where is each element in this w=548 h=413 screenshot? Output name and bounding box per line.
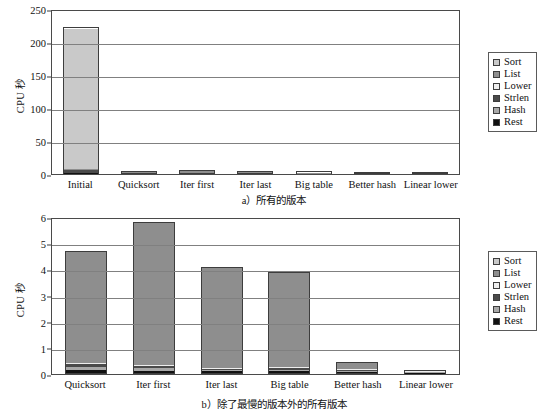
x-tick-label: Better hash bbox=[324, 379, 392, 390]
bar-slot bbox=[52, 11, 110, 174]
x-tick-label: Iter last bbox=[187, 379, 255, 390]
figure-cpu-seconds-by-version: CPU 秒 050100150200250 InitialQuicksortIt… bbox=[0, 0, 548, 413]
legend-swatch-sort bbox=[493, 258, 500, 265]
chart-all-but-slowest: CPU 秒 0123456 QuicksortIter firstIter la… bbox=[0, 205, 548, 413]
gridline bbox=[52, 110, 459, 111]
gridline bbox=[52, 44, 459, 45]
stacked-bar bbox=[179, 170, 215, 174]
x-axis-tick-labels-a: InitialQuicksortIter firstIter lastBig t… bbox=[51, 179, 460, 190]
gridline bbox=[52, 143, 459, 144]
legend-label: Sort bbox=[504, 56, 522, 68]
x-tick-label: Iter first bbox=[119, 379, 187, 390]
gridline bbox=[52, 298, 459, 299]
legend-item: Rest bbox=[493, 315, 531, 327]
legend-label: List bbox=[504, 68, 520, 80]
x-tick-label: Better hash bbox=[343, 179, 401, 190]
x-axis-tick-labels-b: QuicksortIter firstIter lastBig tableBet… bbox=[51, 379, 460, 390]
legend-item: Strlen bbox=[493, 92, 531, 104]
caption-b: b）除了最慢的版本外的所有版本 bbox=[0, 396, 548, 411]
legend-label: Sort bbox=[504, 255, 522, 267]
bar-segment-list bbox=[269, 273, 309, 367]
bar-slot bbox=[168, 11, 226, 174]
plot-area-b bbox=[51, 218, 460, 375]
legend-item: Rest bbox=[493, 116, 531, 128]
stacked-bar bbox=[63, 27, 99, 174]
legend-label: Strlen bbox=[504, 291, 529, 303]
legend-b: SortListLowerStrlenHashRest bbox=[488, 251, 537, 331]
stacked-bar bbox=[121, 171, 157, 174]
x-tick-label: Linear lower bbox=[392, 379, 460, 390]
legend-label: Rest bbox=[504, 315, 523, 327]
x-tick-label: Quicksort bbox=[109, 179, 167, 190]
x-tick-label: Iter last bbox=[226, 179, 284, 190]
legend-label: Rest bbox=[504, 116, 523, 128]
legend-label: Hash bbox=[504, 303, 526, 315]
stacked-bar bbox=[404, 370, 446, 374]
bar-segment-rest bbox=[202, 371, 242, 373]
legend-item: Lower bbox=[493, 279, 531, 291]
legend-swatch-list bbox=[493, 71, 500, 78]
legend-label: Hash bbox=[504, 104, 526, 116]
stacked-bar bbox=[354, 172, 390, 174]
bar-segment-list bbox=[202, 268, 242, 369]
legend-swatch-hash bbox=[493, 306, 500, 313]
x-tick-label: Quicksort bbox=[51, 379, 119, 390]
legend-swatch-strlen bbox=[493, 95, 500, 102]
legend-swatch-lower bbox=[493, 83, 500, 90]
stacked-bar bbox=[237, 171, 273, 174]
legend-item: Sort bbox=[493, 255, 531, 267]
legend-a: SortListLowerStrlenHashRest bbox=[488, 52, 537, 132]
legend-swatch-sort bbox=[493, 59, 500, 66]
stacked-bar bbox=[65, 251, 107, 374]
y-tick-label: 2 bbox=[41, 317, 46, 328]
y-tick-label: 150 bbox=[30, 71, 46, 82]
legend-item: List bbox=[493, 267, 531, 279]
legend-item: Hash bbox=[493, 104, 531, 116]
plot-area-a bbox=[51, 10, 460, 175]
gridline bbox=[52, 245, 459, 246]
legend-item: Strlen bbox=[493, 291, 531, 303]
legend-label: List bbox=[504, 267, 520, 279]
y-tick-label: 250 bbox=[30, 5, 46, 16]
bar-segment-list bbox=[66, 252, 106, 363]
y-axis-tick-labels-b: 0123456 bbox=[16, 205, 46, 413]
legend-item: List bbox=[493, 68, 531, 80]
bar-segment-rest bbox=[337, 372, 377, 373]
bar-segment-rest bbox=[134, 371, 174, 373]
legend-swatch-lower bbox=[493, 282, 500, 289]
legend-swatch-list bbox=[493, 270, 500, 277]
y-tick-label: 6 bbox=[41, 213, 46, 224]
y-tick-label: 0 bbox=[41, 370, 46, 381]
legend-swatch-rest bbox=[493, 119, 500, 126]
bar-slot bbox=[110, 11, 168, 174]
legend-swatch-rest bbox=[493, 318, 500, 325]
gridline bbox=[52, 350, 459, 351]
chart-all-versions: CPU 秒 050100150200250 InitialQuicksortIt… bbox=[0, 0, 548, 205]
y-tick-label: 4 bbox=[41, 265, 46, 276]
legend-item: Hash bbox=[493, 303, 531, 315]
bar-series-a bbox=[52, 11, 459, 174]
x-tick-label: Initial bbox=[51, 179, 109, 190]
legend-label: Strlen bbox=[504, 92, 529, 104]
gridline bbox=[52, 271, 459, 272]
bar-slot bbox=[226, 11, 284, 174]
y-axis-tick-labels-a: 050100150200250 bbox=[16, 0, 46, 205]
y-tick-label: 100 bbox=[30, 104, 46, 115]
stacked-bar bbox=[201, 267, 243, 374]
legend-swatch-strlen bbox=[493, 294, 500, 301]
y-tick-label: 1 bbox=[41, 343, 46, 354]
bar-slot bbox=[401, 11, 459, 174]
legend-swatch-hash bbox=[493, 107, 500, 114]
x-tick-label: Linear lower bbox=[402, 179, 460, 190]
bar-segment-rest bbox=[66, 370, 106, 373]
legend-item: Sort bbox=[493, 56, 531, 68]
legend-label: Lower bbox=[504, 279, 531, 291]
stacked-bar bbox=[412, 172, 448, 174]
y-tick-label: 0 bbox=[41, 170, 46, 181]
stacked-bar bbox=[296, 171, 332, 174]
gridline bbox=[52, 77, 459, 78]
legend-item: Lower bbox=[493, 80, 531, 92]
bar-slot bbox=[285, 11, 343, 174]
x-tick-label: Big table bbox=[285, 179, 343, 190]
gridline bbox=[52, 324, 459, 325]
